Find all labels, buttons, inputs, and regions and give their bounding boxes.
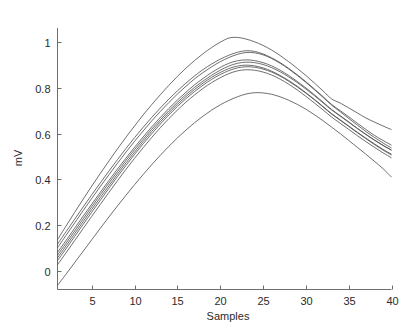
y-tick-label: 0.6 <box>35 129 50 141</box>
series-line <box>58 67 392 261</box>
series-line <box>58 65 392 258</box>
y-tick-label: 0.2 <box>35 220 50 232</box>
x-axis-title: Samples <box>207 310 250 322</box>
x-tick-label: 30 <box>300 295 312 307</box>
x-tick-label: 5 <box>89 295 95 307</box>
y-tick-label: 0.4 <box>35 174 50 186</box>
x-tick-label: 25 <box>257 295 269 307</box>
y-tick-label: 0 <box>44 266 50 278</box>
x-tick-label: 20 <box>214 295 226 307</box>
series-line <box>58 62 392 255</box>
y-tick-label: 0.8 <box>35 83 50 95</box>
x-tick-label: 35 <box>343 295 355 307</box>
x-tick-label: 40 <box>386 295 398 307</box>
series-line <box>58 51 392 244</box>
x-axis-tick-labels: 510152025303540 <box>89 295 398 307</box>
y-tick-label: 1 <box>44 37 50 49</box>
line-chart-canvas: 510152025303540 00.20.40.60.81 Samples m… <box>0 0 411 332</box>
series-line <box>58 60 392 252</box>
x-tick-label: 10 <box>129 295 141 307</box>
series-group <box>58 37 392 285</box>
chart-figure: 510152025303540 00.20.40.60.81 Samples m… <box>0 0 411 332</box>
x-axis-ticks <box>93 286 393 290</box>
series-line <box>58 70 392 265</box>
axes-group <box>58 28 392 290</box>
x-tick-label: 15 <box>171 295 183 307</box>
y-axis-title: mV <box>12 149 24 166</box>
y-axis-tick-labels: 00.20.40.60.81 <box>35 37 50 278</box>
